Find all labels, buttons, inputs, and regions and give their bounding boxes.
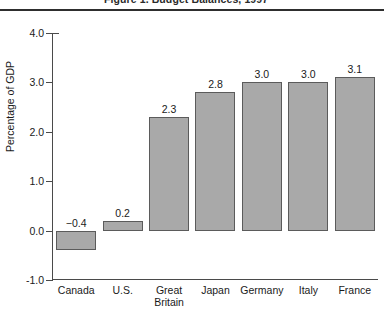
y-axis-tick: [46, 33, 53, 34]
bar-value-label: 3.0: [301, 68, 316, 80]
x-axis-category-label: U.S.: [112, 285, 132, 297]
bar[interactable]: [149, 117, 189, 231]
bar-value-label: 3.1: [347, 63, 362, 75]
plot-area: 4.03.02.01.00.0-1.0 −0.4Canada0.2U.S.2.3…: [52, 33, 378, 280]
bar-series: −0.4Canada0.2U.S.2.3Great Britain2.8Japa…: [53, 33, 378, 280]
y-axis-tick: [46, 231, 53, 232]
chart-title-strip: Figure 1. Budget Balances, 1997: [0, 0, 384, 9]
x-axis-category-label: Italy: [299, 285, 318, 297]
bar-value-label: 0.2: [115, 207, 130, 219]
y-axis-tick: [46, 181, 53, 182]
bar-value-label: 2.3: [162, 103, 177, 115]
bar[interactable]: [56, 231, 96, 251]
x-axis-category-label: France: [338, 285, 371, 297]
bar-chart-figure: Figure 1. Budget Balances, 1997 Percenta…: [0, 0, 384, 315]
x-axis-category-label: Japan: [201, 285, 230, 297]
bar[interactable]: [335, 77, 375, 230]
bar[interactable]: [195, 92, 235, 230]
bar-group[interactable]: 0.2U.S.: [99, 33, 145, 280]
y-axis-tick-label: 1.0: [29, 175, 44, 187]
y-axis-tick: [46, 280, 53, 281]
y-axis-tick-label: 2.0: [29, 126, 44, 138]
bar-group[interactable]: 2.8Japan: [192, 33, 238, 280]
x-axis-category-label: Canada: [58, 285, 95, 297]
bar-value-label: −0.4: [66, 217, 87, 229]
bar[interactable]: [242, 82, 282, 230]
bar-value-label: 3.0: [255, 68, 270, 80]
bar-group[interactable]: 3.1France: [332, 33, 378, 280]
y-axis-tick-label: 0.0: [29, 225, 44, 237]
bar[interactable]: [103, 221, 143, 231]
bar-group[interactable]: −0.4Canada: [53, 33, 99, 280]
bar-value-label: 2.8: [208, 78, 223, 90]
y-axis-tick-label: 4.0: [29, 27, 44, 39]
y-axis-tick: [46, 82, 53, 83]
y-axis-tick: [46, 132, 53, 133]
x-axis-category-label: Great Britain: [154, 285, 184, 308]
y-axis-tick-label: 3.0: [29, 76, 44, 88]
y-axis-tick-label: -1.0: [26, 274, 44, 286]
y-axis-title: Percentage of GDP: [4, 61, 16, 152]
bar-group[interactable]: 2.3Great Britain: [146, 33, 192, 280]
bar-group[interactable]: 3.0Italy: [285, 33, 331, 280]
bar[interactable]: [288, 82, 328, 230]
title-divider-rule: [0, 9, 384, 11]
bar-group[interactable]: 3.0Germany: [239, 33, 285, 280]
x-axis-category-label: Germany: [240, 285, 283, 297]
chart-title: Figure 1. Budget Balances, 1997: [104, 0, 268, 5]
